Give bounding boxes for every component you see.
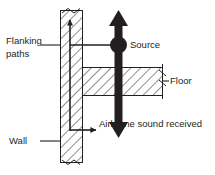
source-label: Source (130, 39, 160, 50)
flanking-paths-label-line2: paths (6, 48, 29, 59)
airborne-sound-label: Airborne sound received (99, 118, 202, 129)
sound-transmission-diagram: Flanking paths Source Floor Airborne sou… (0, 0, 215, 175)
diagram-canvas: Flanking paths Source Floor Airborne sou… (0, 0, 215, 175)
floor-element (83, 64, 167, 99)
wall-label: Wall (9, 135, 27, 146)
wall-element (61, 9, 83, 165)
floor-label: Floor (170, 75, 192, 86)
wall-body (61, 11, 83, 163)
flanking-paths-label-line1: Flanking (6, 35, 42, 46)
source-marker-icon (110, 37, 127, 54)
